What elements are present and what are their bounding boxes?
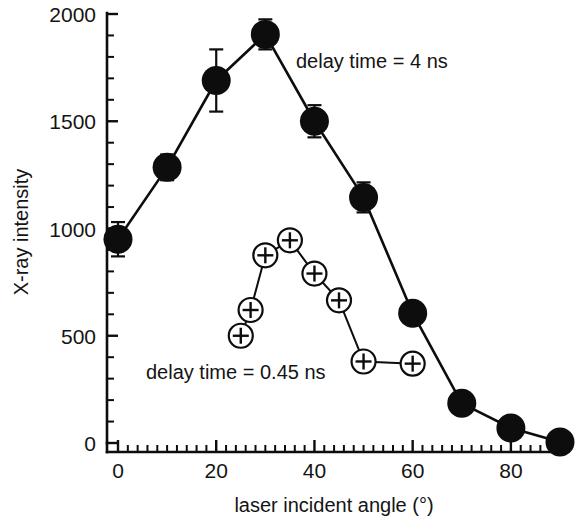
x-tick-label: 20 <box>205 459 228 482</box>
x-tick-label: 0 <box>112 459 124 482</box>
y-tick-label: 0 <box>84 432 96 455</box>
data-point-filled-circle <box>349 183 378 212</box>
y-tick-label: 2000 <box>49 3 96 26</box>
xray-intensity-line-chart: 0500100015002000 020406080 delay time = … <box>0 0 582 525</box>
y-axis-tick-labels: 0500100015002000 <box>49 3 96 455</box>
axes-frame <box>107 13 562 452</box>
x-tick-label: 60 <box>401 459 424 482</box>
data-point-filled-circle <box>202 66 231 95</box>
x-axis-ticks <box>118 440 560 452</box>
x-axis-title: laser incident angle (°) <box>234 494 433 516</box>
y-tick-label: 1000 <box>49 218 96 241</box>
data-point-filled-circle <box>447 389 476 418</box>
chart-figure: 0500100015002000 020406080 delay time = … <box>0 0 582 525</box>
y-axis-title: X-ray intensity <box>10 169 32 296</box>
x-axis-tick-labels: 020406080 <box>112 459 522 482</box>
data-point-filled-circle <box>496 413 525 442</box>
data-point-filled-circle <box>251 20 280 49</box>
data-point-filled-circle <box>104 225 133 254</box>
series-delay-045ns <box>229 228 425 375</box>
x-tick-label: 80 <box>499 459 522 482</box>
y-tick-label: 1500 <box>49 110 96 133</box>
y-tick-label: 500 <box>61 325 96 348</box>
data-point-filled-circle <box>153 153 182 182</box>
annotation-delay-4ns: delay time = 4 ns <box>296 50 448 72</box>
x-tick-label: 40 <box>303 459 326 482</box>
series-delay-4ns <box>104 19 575 456</box>
data-point-filled-circle <box>398 299 427 328</box>
data-point-filled-circle <box>546 427 575 456</box>
data-point-filled-circle <box>300 107 329 136</box>
annotation-delay-045ns: delay time = 0.45 ns <box>146 361 326 383</box>
